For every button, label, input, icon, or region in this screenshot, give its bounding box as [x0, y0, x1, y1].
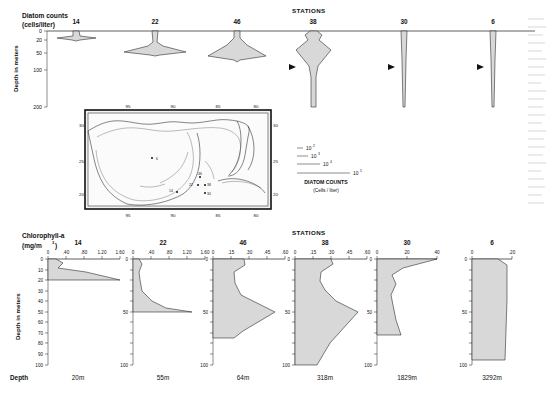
- diatom-station-label-14: 14: [72, 18, 80, 25]
- diatom-arrow-38: [289, 64, 296, 70]
- chl-22-xtick-4: 1.60: [201, 250, 210, 255]
- map-point-38: [204, 184, 206, 186]
- chl-22-xtick-0: 0: [132, 250, 135, 255]
- diatom-station-label-46: 46: [233, 18, 241, 25]
- chl-38-ytick-100: 100: [282, 363, 290, 368]
- chl-14-xtick-0: 0: [47, 250, 50, 255]
- chl-6-xtick-1: .20: [509, 250, 516, 255]
- chl-title-line2: (mg/m: [22, 242, 42, 250]
- chl-ytick-80: 80: [38, 341, 44, 346]
- chl-bottom-depth-38: 318m: [317, 374, 333, 381]
- chl-stations-header: STATIONS: [292, 229, 326, 236]
- chl-30-xtick-1: 20: [404, 250, 410, 255]
- map-lon-95-top: 95: [126, 104, 131, 109]
- chl-station-label-22: 22: [159, 239, 167, 246]
- map-lat-ticks-left: 30 25 20: [79, 123, 84, 197]
- map-lon-90-bottom: 90: [171, 213, 176, 218]
- chl-38-xtick-2: .30: [328, 250, 335, 255]
- chl-6-x-ticks: 0 .20: [471, 250, 516, 259]
- chl-ytick-30: 30: [38, 289, 44, 294]
- chl-station-14: 14 0 10 20 30 40 50 60 70 80 90 100 0 .4…: [35, 239, 125, 381]
- diatom-profile-38: [296, 31, 331, 107]
- map-lat-30-right: 30: [273, 123, 278, 128]
- legend-title: DIATOM COUNTS: [304, 179, 348, 185]
- chl-ytick-90: 90: [38, 352, 44, 357]
- chl-bottom-depth-22: 55m: [157, 374, 169, 381]
- map-point-label-14: 14: [169, 189, 173, 193]
- chl-ytick-60: 60: [38, 320, 44, 325]
- chl-station-label-38: 38: [321, 239, 329, 246]
- chl-46-xtick-1: .15: [228, 250, 235, 255]
- legend-value-1: 10: [306, 146, 312, 151]
- adjacent-page-text-sliver: [528, 18, 546, 204]
- diatom-station-label-6: 6: [491, 18, 495, 25]
- chl-station-label-14: 14: [74, 239, 82, 246]
- diatom-stations-header: STATIONS: [292, 7, 326, 14]
- map-point-46: [199, 176, 201, 178]
- diatom-profile-30: [401, 31, 407, 107]
- map-lon-80-top: 80: [254, 104, 259, 109]
- chl-6-depth-ticks: 0 50 100: [459, 257, 472, 368]
- chl-title-close: ): [55, 242, 57, 250]
- legend-value-4: 10: [353, 171, 359, 176]
- diatom-profile-6: [490, 31, 496, 107]
- legend-subtitle: (Cells / liter): [313, 188, 339, 193]
- chl-6-ytick-100: 100: [459, 363, 467, 368]
- chl-22-depth-ticks: 0 50 100: [120, 257, 133, 368]
- chl-ytick-50: 50: [38, 310, 44, 315]
- chl-ytick-70: 70: [38, 331, 44, 336]
- map-lat-25-right: 25: [273, 159, 278, 164]
- map-lon-85-top: 85: [216, 104, 221, 109]
- chl-22-xtick-2: .80: [166, 250, 173, 255]
- chlorophyll-panel: Chlorophyll-a (mg/m 3 ) STATIONS Depth i…: [10, 229, 516, 382]
- map-point-30: [204, 192, 206, 194]
- legend-value-3: 10: [323, 162, 329, 167]
- chl-38-depth-ticks: 0 50 100: [282, 257, 295, 368]
- diatom-count-legend: 10 2 10 3 10 4 10 5 DIATOM COUNTS (Cells…: [297, 144, 362, 193]
- diatom-station-label-22: 22: [151, 18, 159, 25]
- chl-depth-row-label: Depth: [10, 374, 28, 382]
- chl-22-ytick-0: 0: [125, 257, 128, 262]
- chl-6-ytick-0: 0: [464, 257, 467, 262]
- legend-exp-2: 3: [318, 152, 320, 156]
- diatom-station-label-30: 30: [400, 18, 408, 25]
- chl-30-ytick-100: 100: [364, 363, 372, 368]
- chl-46-xtick-3: .45: [264, 250, 271, 255]
- legend-exp-1: 2: [313, 144, 315, 148]
- chl-14-xtick-1: .40: [63, 250, 70, 255]
- chl-38-xtick-0: 0: [294, 250, 297, 255]
- diatom-profile-46: [208, 31, 266, 62]
- map-lon-ticks-top: 95 90 85 80: [126, 104, 259, 109]
- chl-profile-30: [377, 259, 437, 335]
- chl-46-ytick-50: 50: [203, 310, 209, 315]
- diatom-station-label-38: 38: [309, 18, 317, 25]
- gulf-of-mexico-map: 95 90 85 80 95 90 85 80 30 25 20 30 25 2…: [79, 104, 278, 218]
- chl-30-xtick-0: 0: [376, 250, 379, 255]
- diatom-y-axis-label: Depth in meters: [12, 45, 19, 92]
- chl-38-xtick-4: .60: [364, 250, 371, 255]
- map-point-label-30: 30: [207, 192, 211, 196]
- chl-46-xtick-0: 0: [212, 250, 215, 255]
- chl-station-label-30: 30: [403, 239, 411, 246]
- diatom-ytick-100: 100: [33, 67, 42, 73]
- diatom-ytick-200: 200: [33, 104, 42, 110]
- map-lon-90-top: 90: [171, 104, 176, 109]
- chl-ytick-40: 40: [38, 299, 44, 304]
- chl-station-label-46: 46: [239, 239, 247, 246]
- diatom-profile-22: [124, 31, 186, 56]
- chl-14-depth-ticks: 0 10 20 30 40 50 60 70 80 90 100: [35, 257, 48, 368]
- map-lon-85-bottom: 85: [216, 213, 221, 218]
- chl-14-xtick-2: .80: [81, 250, 88, 255]
- diatom-panel: Diatom counts (cells/liter) STATIONS 0 2…: [12, 7, 535, 110]
- chl-profile-6: [472, 259, 507, 360]
- chl-14-xtick-4: 1.60: [116, 250, 125, 255]
- chl-bottom-depth-30: 1829m: [397, 374, 417, 381]
- chl-38-ytick-0: 0: [287, 257, 290, 262]
- chl-22-xtick-1: .40: [148, 250, 155, 255]
- chl-46-x-ticks: 0 .15 .30 .45 .60: [212, 250, 289, 259]
- map-point-6: [151, 157, 153, 159]
- chl-profile-22: [133, 259, 192, 312]
- diatom-arrow-6: [477, 64, 484, 70]
- chl-title-line1: Chlorophyll-a: [22, 232, 65, 240]
- chl-30-xtick-2: 40: [434, 250, 440, 255]
